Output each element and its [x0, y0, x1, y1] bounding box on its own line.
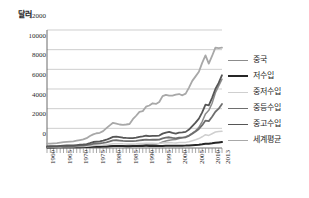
x-tick-label: 2010 [215, 150, 222, 164]
legend-item-중고수입[interactable]: 중고수입 [228, 116, 308, 132]
legend-item-중등수입[interactable]: 중등수입 [228, 100, 308, 116]
gdp-per-capita-line-chart: 달러 120001000080006000400020000 196019651… [0, 0, 309, 198]
x-tick-label: 1965 [67, 150, 74, 164]
x-tick-label: 2000 [182, 150, 189, 164]
legend-line-swatch [228, 92, 248, 93]
x-tick-label: 2013 [225, 150, 232, 164]
legend-label: 중저수입 [253, 88, 281, 96]
x-tick-label: 1990 [149, 150, 156, 164]
legend-label: 중등수입 [253, 104, 281, 112]
legend-line-swatch [228, 108, 248, 109]
legend-item-저수입[interactable]: 저수입 [228, 68, 308, 84]
legend-line-swatch [228, 60, 248, 61]
x-tick-label: 1980 [116, 150, 123, 164]
legend-label: 세계평균 [253, 136, 281, 144]
x-tick-label: 2005 [199, 150, 206, 164]
x-tick-label: 1970 [83, 150, 90, 164]
y-tick-label: 12000 [29, 13, 47, 20]
legend-item-중저수입[interactable]: 중저수입 [228, 84, 308, 100]
x-tick-label: 1975 [100, 150, 107, 164]
legend-line-swatch [228, 75, 248, 77]
legend-label: 중국 [253, 56, 267, 64]
series-line-세계평균 [47, 48, 222, 144]
legend-line-swatch [228, 140, 248, 141]
legend-label: 저수입 [253, 72, 274, 80]
legend-label: 중고수입 [253, 120, 281, 128]
x-tick-label: 1960 [50, 150, 57, 164]
chart-legend: 중국저수입중저수입중등수입중고수입세계평균 [228, 52, 308, 148]
x-axis-tick-labels: 1960196519701975198019851990199520002005… [0, 150, 309, 198]
series-line-중고수입 [47, 75, 222, 146]
legend-line-swatch [228, 124, 248, 125]
legend-item-세계평균[interactable]: 세계평균 [228, 132, 308, 148]
legend-item-중국[interactable]: 중국 [228, 52, 308, 68]
x-tick-label: 1985 [133, 150, 140, 164]
x-tick-label: 1995 [166, 150, 173, 164]
